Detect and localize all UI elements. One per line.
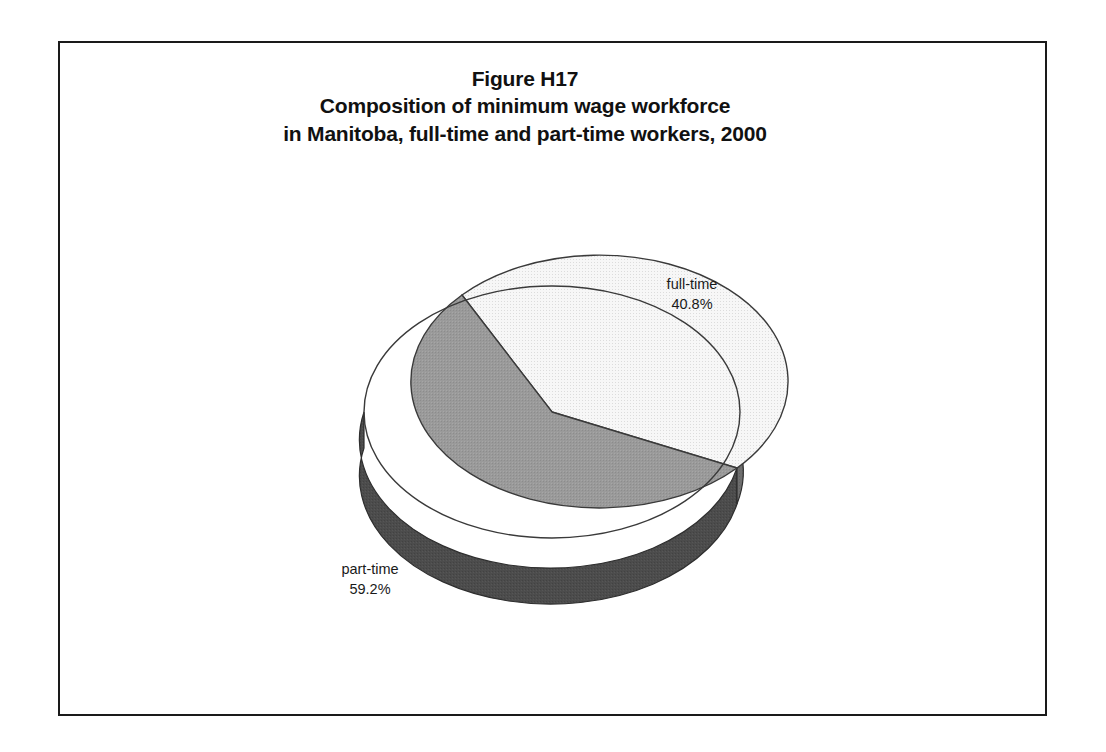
pie-label-part-time-name: part-time: [310, 560, 430, 580]
pie-label-part-time: part-time 59.2%: [310, 560, 430, 599]
pie-label-full-time-name: full-time: [632, 275, 752, 295]
pie-label-full-time-percent: 40.8%: [632, 295, 752, 315]
figure-frame: Figure H17 Composition of minimum wage w…: [58, 41, 1047, 716]
pie-label-part-time-percent: 59.2%: [310, 580, 430, 600]
pie-chart-svg: [60, 43, 1049, 714]
pie-chart: full-time 40.8% part-time 59.2%: [60, 43, 1049, 714]
figure-page: Figure H17 Composition of minimum wage w…: [0, 0, 1106, 752]
pie-label-full-time: full-time 40.8%: [632, 275, 752, 314]
